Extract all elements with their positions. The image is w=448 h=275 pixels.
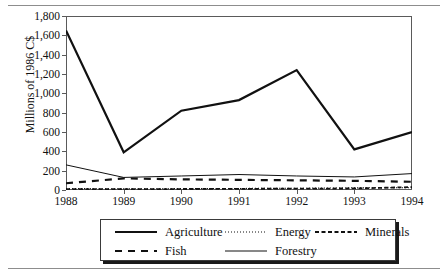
x-tick-label: 1988 [36,195,96,207]
legend-row: Fish Forestry [101,241,395,260]
legend-label: Agriculture [165,225,223,239]
solid-thin-swatch-icon [223,244,269,258]
x-tick-mark [354,190,355,194]
x-tick-label: 1994 [382,195,442,207]
y-tick-mark [62,190,66,191]
x-tick-label: 1989 [94,195,154,207]
legend-label: Energy [275,225,311,239]
x-tick-mark [181,190,182,194]
figure: 02004006008001,0001,2001,4001,6001,800 1… [0,0,448,275]
series-canvas [66,16,412,190]
x-tick-label: 1992 [267,195,327,207]
legend-label: Fish [165,244,187,258]
y-axis-label: Millions of 1986 C$ [24,0,37,170]
dotted-swatch-icon [223,225,269,239]
legend-item-fish[interactable]: Fish [113,241,187,260]
solid-thick-swatch-icon [113,225,159,239]
plot-area [66,16,412,190]
legend-label: Minerals [365,225,409,239]
legend-label: Forestry [275,244,317,258]
series-line-forestry [66,165,412,178]
legend-row: Agriculture Energy Minerals [101,222,395,241]
legend-item-forestry[interactable]: Forestry [223,241,317,260]
legend-item-agriculture[interactable]: Agriculture [113,222,223,241]
dashed-coarse-swatch-icon [313,225,359,239]
series-line-fish [66,178,412,183]
x-tick-mark [124,190,125,194]
legend-item-energy[interactable]: Energy [223,222,311,241]
x-tick-label: 1991 [209,195,269,207]
x-tick-mark [297,190,298,194]
x-tick-mark [239,190,240,194]
legend-item-minerals[interactable]: Minerals [313,222,409,241]
x-tick-label: 1993 [324,195,384,207]
legend: Agriculture Energy Minerals Fish [100,219,396,261]
dashed-swatch-icon [113,244,159,258]
x-tick-label: 1990 [151,195,211,207]
series-line-agriculture [66,31,412,153]
